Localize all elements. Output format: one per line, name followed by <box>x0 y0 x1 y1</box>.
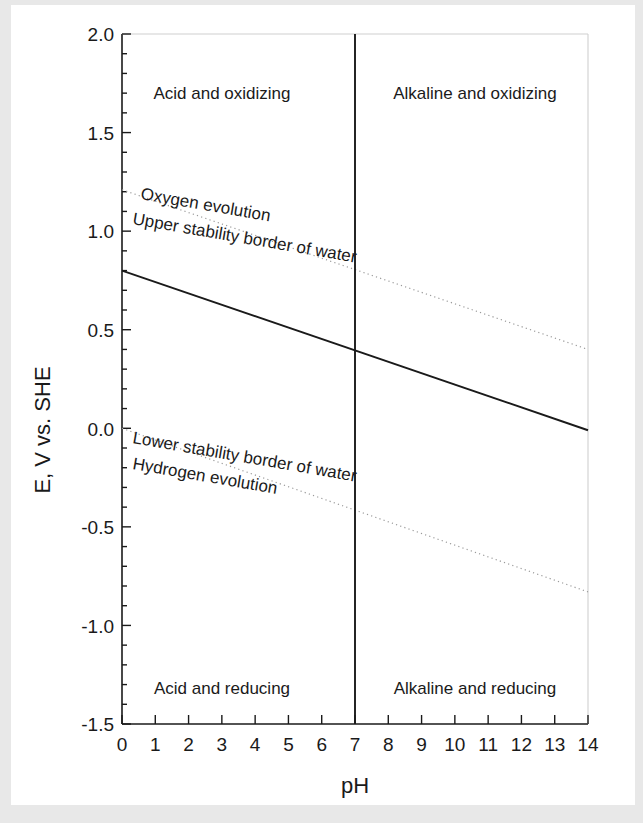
x-tick-labels: 01234567891011121314 <box>117 734 599 755</box>
y-axis-title: E, V vs. SHE <box>30 366 55 493</box>
x-tick-label: 4 <box>250 734 261 755</box>
x-tick-label: 7 <box>350 734 361 755</box>
pourbaix-water-stability-chart: 2.0 1.5 1.0 0.5 0.0 -0.5 -1.0 -1.5 01234… <box>0 0 643 823</box>
y-tick-label: 0.0 <box>88 419 114 440</box>
x-tick-label: 9 <box>416 734 427 755</box>
quadrant-label-acid-reducing: Acid and reducing <box>154 679 290 698</box>
x-tick-label: 5 <box>283 734 294 755</box>
data-series-layer <box>122 34 588 724</box>
x-tick-label: 6 <box>316 734 327 755</box>
x-tick-label: 12 <box>511 734 532 755</box>
y-tick-label: -1.5 <box>81 714 114 735</box>
quadrant-label-alkaline-reducing: Alkaline and reducing <box>394 679 557 698</box>
y-tick-label: 2.0 <box>88 24 114 45</box>
y-axis-ticks <box>122 34 131 724</box>
x-tick-label: 0 <box>117 734 128 755</box>
y-tick-label: 1.5 <box>88 123 114 144</box>
x-tick-label: 2 <box>183 734 194 755</box>
line-annotations: Oxygen evolution Upper stability border … <box>131 184 358 498</box>
y-tick-labels: 2.0 1.5 1.0 0.5 0.0 -0.5 -1.0 -1.5 <box>81 24 114 735</box>
chart-svg: 2.0 1.5 1.0 0.5 0.0 -0.5 -1.0 -1.5 01234… <box>0 0 643 823</box>
x-tick-label: 10 <box>444 734 465 755</box>
x-tick-label: 8 <box>383 734 394 755</box>
x-tick-label: 14 <box>577 734 599 755</box>
x-tick-label: 13 <box>544 734 565 755</box>
y-tick-label: 1.0 <box>88 221 114 242</box>
y-tick-label: 0.5 <box>88 320 114 341</box>
x-tick-label: 1 <box>150 734 161 755</box>
quadrant-label-alkaline-oxidizing: Alkaline and oxidizing <box>393 84 557 103</box>
x-tick-label: 3 <box>217 734 228 755</box>
quadrant-label-acid-oxidizing: Acid and oxidizing <box>153 84 290 103</box>
x-axis-title: pH <box>341 773 369 798</box>
y-tick-label: -0.5 <box>81 517 114 538</box>
y-tick-label: -1.0 <box>81 616 114 637</box>
x-tick-label: 11 <box>478 734 498 755</box>
